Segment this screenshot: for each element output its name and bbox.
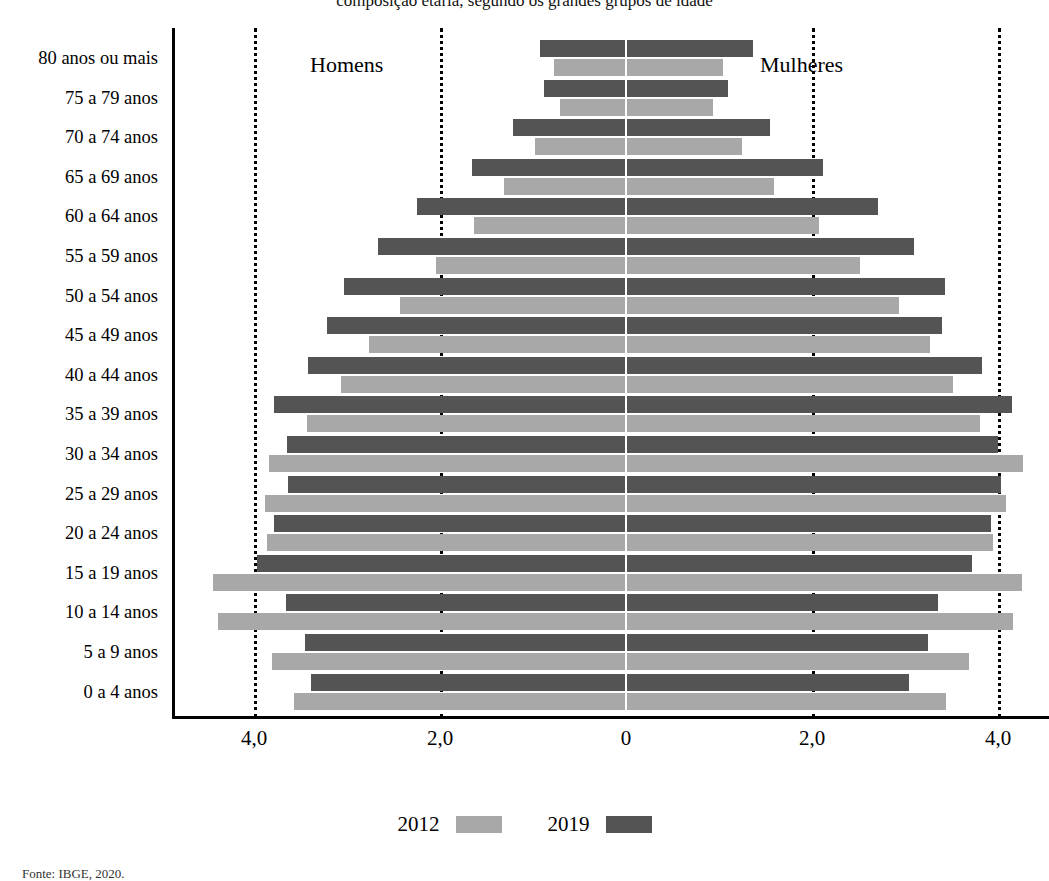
y-axis-tick-label: 50 a 54 anos — [0, 286, 158, 306]
bar-2019-mulheres — [627, 119, 770, 136]
legend-label: 2019 — [548, 812, 590, 836]
y-axis-tick-label: 60 a 64 anos — [0, 206, 158, 226]
bar-rows — [172, 28, 1049, 716]
bar-row — [172, 198, 1049, 236]
y-axis-tick-label: 55 a 59 anos — [0, 246, 158, 266]
x-axis-line — [172, 716, 1049, 719]
bar-row — [172, 119, 1049, 157]
bar-2019-homens — [472, 159, 625, 176]
region-label-homens: Homens — [310, 52, 383, 78]
bar-2012-mulheres — [627, 138, 742, 155]
bar-2019-homens — [544, 80, 625, 97]
bar-2012-homens — [218, 613, 625, 630]
legend-item: 2019 — [548, 812, 652, 836]
bar-2012-mulheres — [627, 297, 899, 314]
bar-2019-homens — [287, 436, 624, 453]
bar-2012-mulheres — [627, 99, 713, 116]
clipped-title-text: composição etária, segundo os grandes gr… — [336, 0, 713, 10]
bar-2012-homens — [265, 495, 625, 512]
bar-2012-mulheres — [627, 257, 860, 274]
chart-legend: 20122019 — [0, 806, 1049, 842]
clipped-title-sliver: composição etária, segundo os grandes gr… — [0, 0, 1049, 16]
bar-2012-homens — [400, 297, 625, 314]
bar-row — [172, 278, 1049, 316]
bar-2012-homens — [535, 138, 625, 155]
legend-swatch — [456, 816, 502, 833]
bar-row — [172, 476, 1049, 514]
x-axis-tick-label: 4,0 — [209, 724, 299, 752]
bar-row — [172, 594, 1049, 632]
bar-2019-homens — [288, 476, 624, 493]
bar-2019-mulheres — [627, 198, 878, 215]
x-axis-labels: 4,02,002,04,0 — [0, 724, 1049, 758]
bar-row — [172, 159, 1049, 197]
y-axis-tick-label: 70 a 74 anos — [0, 127, 158, 147]
bar-2019-mulheres — [627, 317, 942, 334]
bar-2019-homens — [540, 40, 624, 57]
bar-2012-mulheres — [627, 415, 980, 432]
bar-2019-homens — [308, 357, 625, 374]
bar-2019-mulheres — [627, 278, 945, 295]
bar-2019-mulheres — [627, 476, 1001, 493]
bar-2012-mulheres — [627, 376, 953, 393]
bar-2012-mulheres — [627, 59, 723, 76]
bar-2019-mulheres — [627, 594, 937, 611]
bar-2012-homens — [436, 257, 625, 274]
y-axis-tick-label: 20 a 24 anos — [0, 523, 158, 543]
bar-2012-homens — [560, 99, 625, 116]
bar-2012-mulheres — [627, 217, 819, 234]
bar-2012-mulheres — [627, 653, 969, 670]
bar-2019-mulheres — [627, 436, 998, 453]
bar-2012-mulheres — [627, 495, 1006, 512]
region-label-mulheres: Mulheres — [760, 52, 843, 78]
y-axis-tick-label: 10 a 14 anos — [0, 602, 158, 622]
bar-2012-homens — [554, 59, 624, 76]
population-pyramid-chart: composição etária, segundo os grandes gr… — [0, 0, 1049, 881]
bar-2012-homens — [341, 376, 624, 393]
x-axis-tick-label: 2,0 — [395, 724, 485, 752]
bar-2019-homens — [305, 634, 625, 651]
bar-2019-homens — [378, 238, 625, 255]
bar-row — [172, 634, 1049, 672]
x-axis-tick-label: 2,0 — [767, 724, 857, 752]
y-axis-tick-label: 35 a 39 anos — [0, 404, 158, 424]
legend-swatch — [606, 816, 652, 833]
bar-row — [172, 317, 1049, 355]
y-axis-tick-label: 75 a 79 anos — [0, 88, 158, 108]
bar-row — [172, 80, 1049, 118]
bar-2019-mulheres — [627, 357, 982, 374]
bar-row — [172, 436, 1049, 474]
bar-2012-mulheres — [627, 336, 930, 353]
bar-2019-homens — [274, 396, 624, 413]
bar-2012-mulheres — [627, 178, 774, 195]
bar-2012-homens — [504, 178, 625, 195]
bar-row — [172, 396, 1049, 434]
y-axis-tick-label: 45 a 49 anos — [0, 325, 158, 345]
bar-2019-homens — [311, 674, 625, 691]
bar-2019-homens — [286, 594, 625, 611]
y-axis-tick-label: 5 a 9 anos — [0, 642, 158, 662]
bar-row — [172, 555, 1049, 593]
bar-2019-homens — [344, 278, 625, 295]
bar-row — [172, 515, 1049, 553]
bar-row — [172, 357, 1049, 395]
legend-item: 2012 — [398, 812, 502, 836]
bar-2019-mulheres — [627, 80, 728, 97]
bar-row — [172, 40, 1049, 78]
legend-label: 2012 — [398, 812, 440, 836]
bar-2019-mulheres — [627, 555, 972, 572]
bar-2019-mulheres — [627, 396, 1012, 413]
bar-2012-homens — [294, 693, 625, 710]
bar-2019-homens — [417, 198, 625, 215]
y-axis-labels: 80 anos ou mais75 a 79 anos70 a 74 anos6… — [0, 28, 166, 718]
y-axis-tick-label: 15 a 19 anos — [0, 563, 158, 583]
bar-2012-homens — [267, 534, 625, 551]
bar-row — [172, 674, 1049, 712]
bar-2019-homens — [257, 555, 625, 572]
bar-2019-mulheres — [627, 238, 914, 255]
bar-2012-homens — [269, 455, 625, 472]
bar-2019-mulheres — [627, 159, 823, 176]
y-axis-tick-label: 25 a 29 anos — [0, 484, 158, 504]
bar-2019-mulheres — [627, 634, 928, 651]
bar-2012-homens — [307, 415, 625, 432]
